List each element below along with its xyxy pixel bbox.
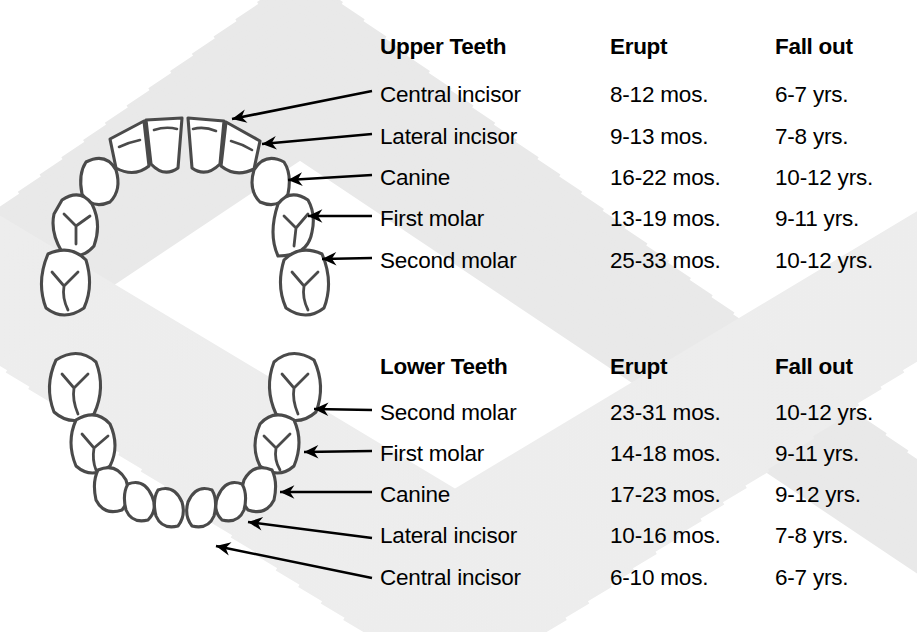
upper-row-1-fall-out: 7-8 yrs. — [775, 120, 848, 154]
upper-header-erupt: Erupt — [610, 30, 667, 64]
lower-row-3-name: Lateral incisor — [380, 519, 517, 553]
tooth-lateral-incisor-right — [216, 483, 246, 521]
tooth-central-incisor-left — [154, 489, 183, 527]
lower-row-4-name: Central incisor — [380, 561, 521, 595]
chart-stage: Upper Teeth Erupt Fall out Central incis… — [0, 0, 917, 632]
lower-row-0-name: Second molar — [380, 396, 516, 430]
lower-row-3-fall-out: 7-8 yrs. — [775, 519, 848, 553]
tooth-canine-right — [242, 468, 276, 512]
upper-arch-diagram — [34, 96, 334, 326]
lower-row-4-erupt: 6-10 mos. — [610, 561, 708, 595]
upper-header-name: Upper Teeth — [380, 30, 506, 64]
tooth-central-incisor-left — [146, 118, 182, 172]
tooth-central-incisor-right — [187, 489, 216, 527]
upper-row-4-fall-out: 10-12 yrs. — [775, 244, 873, 278]
lower-header-name: Lower Teeth — [380, 350, 508, 384]
upper-row-2-erupt: 16-22 mos. — [610, 161, 721, 195]
upper-row-1-erupt: 9-13 mos. — [610, 120, 708, 154]
lower-header-fall-out: Fall out — [775, 350, 853, 384]
upper-row-2-fall-out: 10-12 yrs. — [775, 161, 873, 195]
upper-row-0-erupt: 8-12 mos. — [610, 78, 708, 112]
lower-row-1-fall-out: 9-11 yrs. — [775, 437, 859, 471]
tooth-canine-left — [94, 468, 128, 512]
tooth-lateral-incisor-right — [221, 122, 260, 173]
tooth-lateral-incisor-left — [110, 121, 149, 173]
lower-row-1-name: First molar — [380, 437, 484, 471]
upper-row-3-erupt: 13-19 mos. — [610, 202, 721, 236]
lower-arch-diagram — [34, 338, 334, 578]
upper-row-0-name: Central incisor — [380, 78, 521, 112]
lower-row-2-fall-out: 9-12 yrs. — [775, 478, 861, 512]
lower-row-0-fall-out: 10-12 yrs. — [775, 396, 873, 430]
upper-row-3-fall-out: 9-11 yrs. — [775, 202, 859, 236]
lower-row-2-name: Canine — [380, 478, 450, 512]
lower-row-4-fall-out: 6-7 yrs. — [775, 561, 848, 595]
upper-row-2-name: Canine — [380, 161, 450, 195]
lower-header-erupt: Erupt — [610, 350, 667, 384]
upper-row-3-name: First molar — [380, 202, 484, 236]
lower-row-1-erupt: 14-18 mos. — [610, 437, 721, 471]
upper-header-fall-out: Fall out — [775, 30, 853, 64]
lower-row-2-erupt: 17-23 mos. — [610, 478, 721, 512]
upper-row-1-name: Lateral incisor — [380, 120, 517, 154]
tooth-lateral-incisor-left — [124, 483, 154, 521]
tooth-central-incisor-right — [188, 118, 224, 172]
upper-row-4-name: Second molar — [380, 244, 516, 278]
lower-row-0-erupt: 23-31 mos. — [610, 396, 721, 430]
upper-row-4-erupt: 25-33 mos. — [610, 244, 721, 278]
lower-row-3-erupt: 10-16 mos. — [610, 519, 721, 553]
upper-row-0-fall-out: 6-7 yrs. — [775, 78, 848, 112]
